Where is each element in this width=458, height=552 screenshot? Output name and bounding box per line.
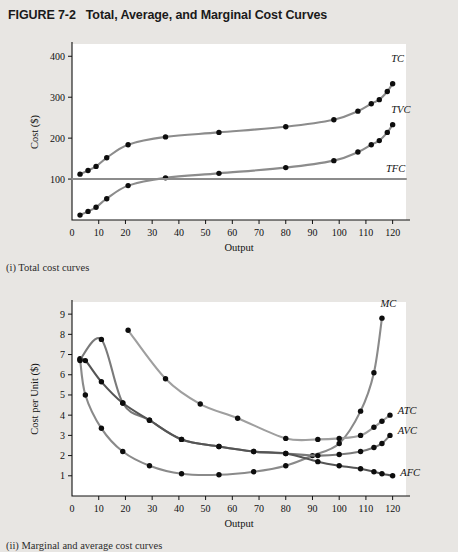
x-tick-label: 110 (359, 227, 374, 238)
data-point-atc (125, 328, 130, 333)
data-point-afc (371, 469, 376, 474)
total-cost-chart-svg: 1002003004000102030405060708090100110120… (0, 34, 458, 258)
figure-title: FIGURE 7-2Total, Average, and Marginal C… (8, 8, 450, 30)
x-tick-label: 120 (385, 503, 400, 514)
curve-label-tc: TC (391, 53, 405, 64)
x-tick-label: 0 (70, 227, 75, 238)
data-point-afc (120, 400, 125, 405)
y-axis-title: Cost per Unit ($) (29, 363, 41, 435)
data-point-mc (358, 408, 363, 413)
x-tick-label: 40 (174, 503, 184, 514)
data-point-afc (358, 466, 363, 471)
y-tick-label: 300 (50, 92, 65, 103)
data-point-mc (337, 441, 342, 446)
y-tick-label: 7 (60, 349, 65, 360)
x-tick-label: 20 (120, 227, 130, 238)
figure-number: FIGURE 7-2 (8, 8, 76, 22)
data-point-mc (179, 471, 184, 476)
x-axis-title: Output (224, 242, 253, 253)
data-point-afc (251, 449, 256, 454)
data-point-mc (379, 315, 384, 320)
data-point-tvc (125, 183, 130, 188)
data-point-mc (216, 472, 221, 477)
data-point-avc (315, 453, 320, 458)
x-tick-label: 80 (281, 227, 291, 238)
data-point-mc (147, 463, 152, 468)
data-point-tc (390, 81, 395, 86)
x-tick-label: 70 (254, 227, 264, 238)
data-point-tvc (104, 196, 109, 201)
data-point-tc (377, 97, 382, 102)
data-point-avc (99, 337, 104, 342)
data-point-atc (235, 415, 240, 420)
data-point-atc (379, 419, 384, 424)
data-point-tvc (85, 209, 90, 214)
data-point-tc (331, 117, 336, 122)
data-point-mc (83, 392, 88, 397)
data-point-tvc (93, 205, 98, 210)
x-axis-title: Output (224, 518, 253, 529)
caption-marginal-average-cost: (ii) Marginal and average cost curves (6, 540, 162, 551)
data-point-tc (163, 134, 168, 139)
x-tick-label: 30 (147, 227, 157, 238)
x-tick-label: 10 (94, 227, 104, 238)
data-point-tvc (355, 149, 360, 154)
y-axis-title: Cost ($) (29, 114, 41, 149)
data-point-atc (283, 436, 288, 441)
x-tick-label: 30 (147, 503, 157, 514)
y-tick-label: 9 (60, 309, 65, 320)
data-point-mc (251, 469, 256, 474)
x-tick-label: 90 (307, 503, 317, 514)
data-point-afc (379, 471, 384, 476)
data-point-tc (104, 155, 109, 160)
data-point-afc (390, 473, 395, 478)
data-point-tc (369, 101, 374, 106)
data-point-avc (337, 452, 342, 457)
data-point-mc (120, 449, 125, 454)
data-point-tvc (77, 212, 82, 217)
data-point-atc (315, 437, 320, 442)
y-tick-label: 100 (50, 174, 65, 185)
data-point-tvc (369, 142, 374, 147)
data-point-afc (77, 358, 82, 363)
data-point-tc (355, 108, 360, 113)
data-point-tc (85, 168, 90, 173)
data-point-tc (385, 89, 390, 94)
data-point-tvc (385, 130, 390, 135)
data-point-mc (99, 426, 104, 431)
data-point-afc (99, 379, 104, 384)
y-tick-label: 5 (60, 389, 65, 400)
curve-label-afc: AFC (399, 467, 421, 478)
data-point-tvc (331, 158, 336, 163)
x-tick-label: 100 (332, 227, 347, 238)
plot-background (72, 44, 406, 220)
data-point-tvc (216, 171, 221, 176)
curve-label-atc: ATC (397, 405, 418, 416)
x-tick-label: 70 (254, 503, 264, 514)
data-point-tvc (377, 138, 382, 143)
y-tick-label: 1 (60, 470, 65, 481)
curve-label-mc: MC (380, 298, 398, 309)
data-point-atc (371, 425, 376, 430)
curve-label-tvc: TVC (391, 104, 411, 115)
data-point-atc (198, 401, 203, 406)
data-point-tc (77, 171, 82, 176)
data-point-atc (358, 433, 363, 438)
curve-label-tfc: TFC (386, 163, 406, 174)
y-tick-label: 200 (50, 133, 65, 144)
data-point-avc (379, 441, 384, 446)
data-point-afc (83, 358, 88, 363)
data-point-mc (283, 463, 288, 468)
data-point-avc (371, 445, 376, 450)
data-point-avc (387, 433, 392, 438)
x-tick-label: 60 (227, 503, 237, 514)
x-tick-label: 10 (94, 503, 104, 514)
figure-title-text: Total, Average, and Marginal Cost Curves (86, 8, 327, 22)
chart-average-marginal-cost-curves: 1234567890102030405060708090100110120Out… (0, 288, 458, 540)
data-point-tc (93, 164, 98, 169)
plot-background (72, 302, 406, 496)
data-point-afc (147, 418, 152, 423)
x-tick-label: 20 (120, 503, 130, 514)
y-tick-label: 8 (60, 329, 65, 340)
y-tick-label: 6 (60, 369, 65, 380)
